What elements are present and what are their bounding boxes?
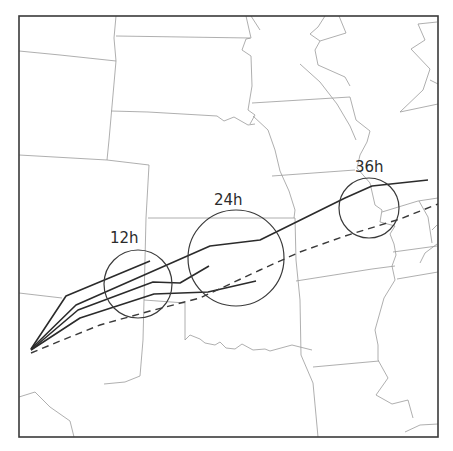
label-36h: 36h bbox=[355, 158, 384, 176]
label-24h: 24h bbox=[214, 191, 243, 209]
label-12h: 12h bbox=[110, 229, 139, 247]
forecast-map: 12h24h36h bbox=[0, 0, 453, 451]
map-background bbox=[0, 0, 453, 451]
